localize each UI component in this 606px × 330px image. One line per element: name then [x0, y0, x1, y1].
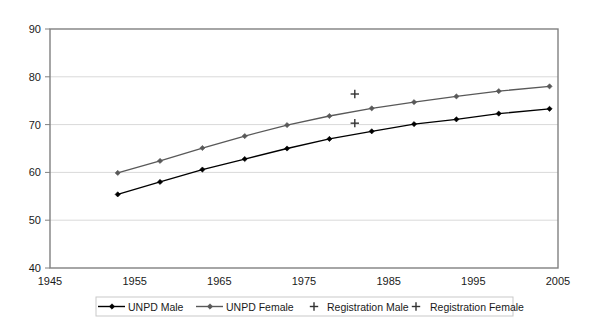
- x-tick-label-1985: 1985: [376, 275, 400, 287]
- legend-label: UNPD Female: [226, 301, 294, 313]
- y-tick-label-90: 90: [29, 23, 41, 35]
- y-tick-label-50: 50: [29, 214, 41, 226]
- x-tick-label-1965: 1965: [207, 275, 231, 287]
- x-tick-label-1975: 1975: [292, 275, 316, 287]
- x-tick-label-2005: 2005: [546, 275, 570, 287]
- x-tick-label-1945: 1945: [38, 275, 62, 287]
- legend-label: Registration Female: [430, 301, 524, 313]
- legend-label: Registration Male: [327, 301, 409, 313]
- x-tick-label-1995: 1995: [461, 275, 485, 287]
- y-tick-label-40: 40: [29, 262, 41, 274]
- y-tick-label-60: 60: [29, 166, 41, 178]
- legend-label: UNPD Male: [128, 301, 184, 313]
- chart-legend: UNPD MaleUNPD FemaleRegistration MaleReg…: [96, 297, 524, 316]
- y-tick-label-70: 70: [29, 119, 41, 131]
- chart-container: 405060708090 194519551965197519851995200…: [0, 0, 606, 330]
- line-chart: 405060708090 194519551965197519851995200…: [0, 0, 606, 330]
- x-tick-label-1955: 1955: [122, 275, 146, 287]
- y-tick-label-80: 80: [29, 71, 41, 83]
